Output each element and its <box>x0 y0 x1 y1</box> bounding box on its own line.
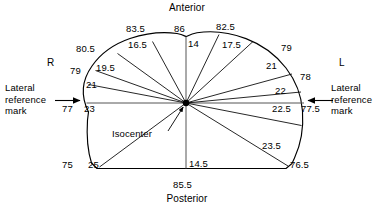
contour-drawing <box>0 0 385 211</box>
value-outer-right-lateral: 77 <box>62 104 73 115</box>
value-inner-ant-right-2: 19.5 <box>96 63 115 74</box>
value-inner-post-left: 23.5 <box>262 141 281 152</box>
value-outer-ant-left-1: 82.5 <box>216 22 235 33</box>
ray-ant-right-2 <box>118 54 187 104</box>
value-outer-left-upper: 79 <box>281 43 292 54</box>
value-inner-right-upper: 21 <box>86 80 97 91</box>
value-outer-right-upper: 79 <box>70 66 81 77</box>
isocenter-label: Isocenter <box>112 129 152 140</box>
value-outer-left-lateral: 77.5 <box>301 104 320 115</box>
value-outer-anterior: 86 <box>174 24 185 35</box>
value-inner-ant-left-1: 17.5 <box>222 40 241 51</box>
value-outer-post-left: 76.5 <box>290 160 309 171</box>
isocenter-point <box>183 100 189 106</box>
left-side-label: L <box>339 58 345 69</box>
value-outer-left-lower: 78 <box>300 72 311 83</box>
right-side-label: R <box>47 58 54 69</box>
value-inner-posterior: 14.5 <box>189 159 208 170</box>
value-inner-left-upper: 21 <box>266 61 277 72</box>
left-lateral-reference-mark-text: Lateral reference mark <box>5 82 46 117</box>
value-inner-right-lateral: 23 <box>84 104 95 115</box>
value-outer-posterior: 85.5 <box>173 180 192 191</box>
anterior-label: Anterior <box>157 3 217 14</box>
value-outer-ant-right-2: 80.5 <box>76 44 95 55</box>
value-inner-post-right: 25 <box>88 160 99 171</box>
value-inner-ant-right-1: 16.5 <box>128 40 147 51</box>
value-outer-ant-right-1: 83.5 <box>126 24 145 35</box>
value-outer-post-right: 75 <box>62 160 73 171</box>
value-inner-anterior: 14 <box>188 39 199 50</box>
posterior-label: Posterior <box>157 194 217 205</box>
ray-right-mid <box>89 85 187 104</box>
ray-right-upper <box>96 71 187 104</box>
value-inner-left-lateral: 22.5 <box>272 104 291 115</box>
value-inner-left-lower: 22 <box>275 86 286 97</box>
contour-diagram: Anterior Posterior R L Lateral reference… <box>0 0 385 211</box>
ray-ant-right-1 <box>153 42 187 104</box>
right-lateral-reference-mark-text: Lateral reference mark <box>331 82 372 117</box>
